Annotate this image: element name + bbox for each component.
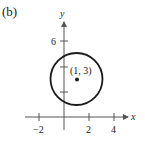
center-point: [75, 78, 79, 82]
x-tick-label: 4: [111, 124, 116, 135]
y-tick-label: 6: [51, 36, 56, 47]
center-label: (1, 3): [70, 65, 92, 77]
x-tick-label: 2: [86, 124, 91, 135]
y-axis-label: y: [59, 8, 65, 19]
x-tick-label: −2: [33, 124, 44, 135]
y-ticks: 6: [51, 36, 68, 92]
x-axis-label: x: [130, 111, 136, 122]
x-ticks: −2 2 4: [33, 113, 116, 135]
circle-graph: x y −2 2 4 6 (1, 3): [0, 0, 145, 143]
